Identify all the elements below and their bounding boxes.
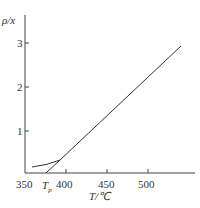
series-linear-region: [60, 46, 181, 160]
x-tick-label-500: 500: [138, 178, 155, 190]
chart: 3 2 1 350 400 450 500 ρ/x T/℃ Tp: [0, 0, 200, 208]
x-axis-label: T/℃: [89, 190, 112, 202]
x-tick-label-350: 350: [16, 178, 33, 190]
y-tick-label-1: 1: [17, 125, 23, 137]
y-tick-label-3: 3: [17, 37, 23, 49]
y-axis-label: ρ/x: [1, 14, 15, 26]
x-tick-label-400: 400: [56, 178, 73, 190]
series-extrapolation: [46, 160, 60, 173]
tp-label: Tp: [42, 179, 52, 194]
x-tick-label-450: 450: [98, 178, 115, 190]
y-tick-label-2: 2: [17, 81, 23, 93]
